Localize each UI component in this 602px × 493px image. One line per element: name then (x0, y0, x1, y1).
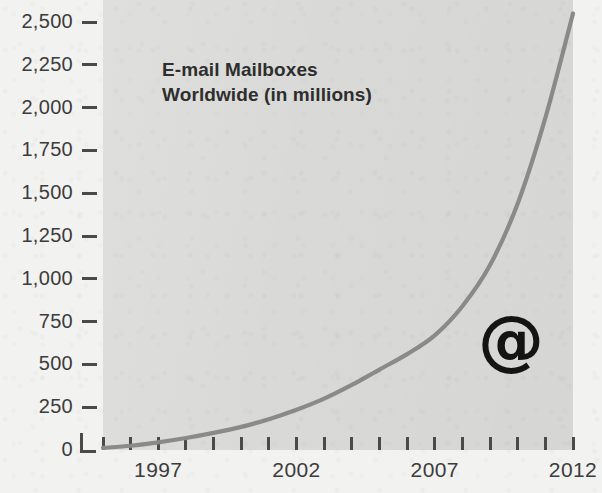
chart-root: 02505007501,0001,2501,5001,7502,0002,250… (0, 0, 602, 493)
chart-title-line-1: E-mail Mailboxes (162, 57, 402, 82)
chart-title: E-mail Mailboxes Worldwide (in millions) (162, 57, 402, 108)
chart-title-line-2: Worldwide (in millions) (162, 82, 402, 107)
at-sign-icon: @ (478, 308, 544, 374)
